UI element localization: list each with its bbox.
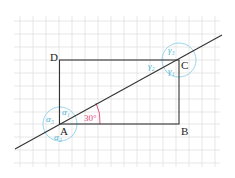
- grid: [14, 16, 220, 167]
- alpha-1-label: α₁: [62, 108, 70, 117]
- alpha-3-label: α₃: [46, 115, 54, 124]
- angle-30-label: 30°: [84, 114, 97, 123]
- gamma-3-label: γ₃: [168, 46, 175, 55]
- geometry-figure: [0, 0, 235, 178]
- gamma-1-label: γ₁: [168, 67, 175, 76]
- vertex-label-b: B: [181, 126, 188, 137]
- vertex-label-d: D: [50, 52, 58, 63]
- alpha-2-label: α₂: [54, 133, 62, 142]
- gamma-2-label: γ₂: [148, 62, 155, 71]
- vertex-label-c: C: [181, 60, 188, 71]
